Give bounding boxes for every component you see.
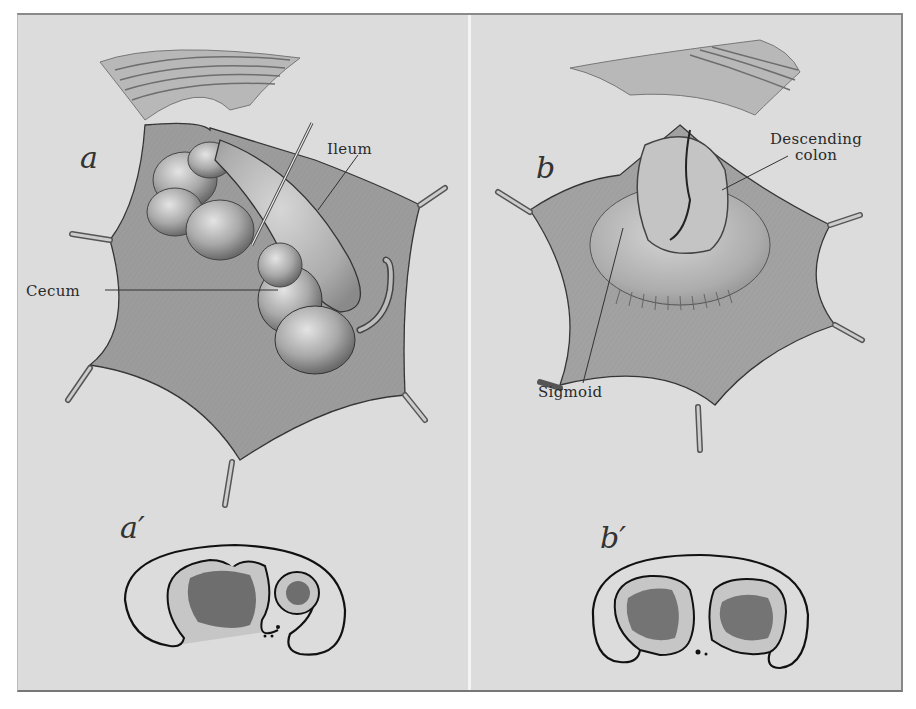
label-descending-colon-line2: colon [770,147,862,163]
label-descending-colon-line1: Descending [770,131,862,147]
cross-section-a-prime [122,543,345,655]
panel-label-b-prime: b′ [600,520,626,555]
label-ileum: Ileum [327,141,372,157]
cross-section-b-prime [593,555,808,668]
panel-label-a-prime: a′ [120,510,145,545]
label-sigmoid: Sigmoid [538,384,602,400]
label-descending-colon: Descending colon [770,131,862,163]
illustration-canvas [0,0,916,709]
panel-label-b: b [536,150,555,185]
panel-label-a: a [80,140,98,175]
panel-a-illustration [68,50,445,505]
label-cecum: Cecum [26,283,80,299]
